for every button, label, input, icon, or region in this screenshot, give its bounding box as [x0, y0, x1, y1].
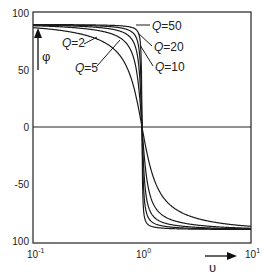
curve-label: Q=50 — [152, 19, 182, 33]
x-tick-label: 100 — [136, 247, 151, 260]
y-tick-label: -50 — [15, 179, 30, 190]
y-axis-ticks: 100500-50100 — [12, 8, 29, 247]
curve-label: Q=20 — [154, 40, 184, 54]
phase-response-chart: 100500-50100 10-1100101 Q=2Q=5Q=50Q=20Q=… — [0, 0, 266, 278]
x-tick-label: 10-1 — [27, 247, 44, 260]
y-tick-label: 50 — [18, 65, 30, 76]
curve-labels: Q=2Q=5Q=50Q=20Q=10 — [62, 19, 185, 75]
x-axis-ticks: 10-1100101 — [27, 247, 260, 260]
right-arrow-icon — [227, 252, 237, 260]
label-leader-line — [84, 37, 97, 44]
y-tick-label: 0 — [23, 122, 29, 133]
x-axis-label: υ — [209, 260, 216, 275]
y-axis-label-group: φ — [34, 28, 50, 70]
up-arrow-icon — [34, 28, 42, 38]
curve-label: Q=5 — [75, 61, 98, 75]
y-tick-label: 100 — [12, 8, 29, 19]
y-tick-label: 100 — [12, 236, 29, 247]
curve-label: Q=10 — [155, 60, 185, 74]
curve-label: Q=2 — [62, 36, 85, 50]
label-leader-line — [140, 45, 153, 66]
label-leader-line — [97, 40, 120, 66]
x-axis-label-group: υ — [205, 252, 237, 275]
y-axis-label: φ — [42, 49, 50, 64]
x-tick-label: 101 — [245, 247, 260, 260]
